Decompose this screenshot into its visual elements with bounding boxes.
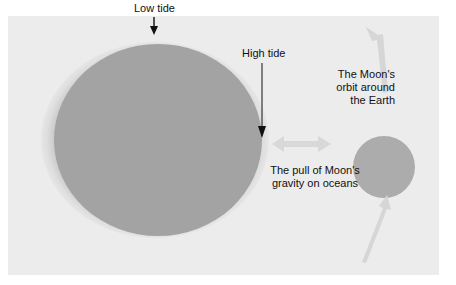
gravity-pull-label: The pull of Moon's gravity on oceans [269,164,361,190]
low-tide-label: Low tide [134,2,175,15]
moon-orbit-line-3: the Earth [318,94,395,107]
moon-orbit-label: The Moon's orbit around the Earth [318,68,395,107]
orbit-lower-arrow-icon [362,195,391,263]
moon-orbit-line-1: The Moon's [318,68,395,81]
high-tide-label: High tide [242,47,285,60]
gravity-pull-line-2: gravity on oceans [269,177,361,190]
gravity-pull-line-1: The pull of Moon's [269,164,361,177]
moon-orbit-line-2: orbit around [318,81,395,94]
tide-diagram [0,0,456,285]
gravity-pull-arrow-icon [272,136,331,152]
moon [353,136,415,198]
low-tide-arrow-icon [150,17,158,35]
earth [54,44,262,236]
